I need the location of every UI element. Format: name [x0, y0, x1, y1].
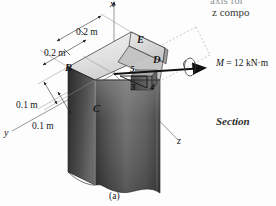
figure-page: axis for z compo Section 0.2 m 0.2 m 0.1…	[0, 0, 276, 206]
dim-line-left-upper	[44, 82, 57, 104]
slope-number-vertical: 3	[131, 83, 136, 92]
dim-label-left-upper: 0.1 m	[16, 101, 38, 111]
dim-label-left-lower: 0.1 m	[32, 122, 54, 132]
axis-label-y: y	[4, 128, 8, 138]
slope-number-horizontal: 4	[150, 83, 155, 92]
point-label-b: B	[65, 63, 72, 74]
moment-label: M = 12 kN·m	[216, 59, 268, 69]
moment-symbol: M	[216, 58, 224, 68]
block-front-shade	[95, 80, 160, 193]
block-left-face	[68, 67, 95, 185]
point-label-e: E	[137, 35, 144, 46]
mechanics-figure-svg	[0, 0, 276, 206]
point-label-d: D	[153, 55, 161, 66]
axis-label-z: z	[177, 136, 181, 146]
figure-caption: (a)	[109, 192, 120, 202]
body-text-line-second: z compo	[212, 7, 250, 18]
slope-number-hypotenuse: 5	[130, 65, 135, 74]
dim-label-top-upper: 0.2 m	[76, 28, 98, 38]
moment-rotation-ellipse	[185, 58, 196, 76]
section-label: Section	[216, 116, 250, 127]
axis-label-x: x	[110, 0, 114, 9]
dim-label-top-lower: 0.2 m	[44, 49, 66, 59]
point-label-c: C	[93, 104, 100, 115]
moment-unit: kN·m	[246, 58, 268, 68]
moment-value: 12	[234, 58, 244, 68]
